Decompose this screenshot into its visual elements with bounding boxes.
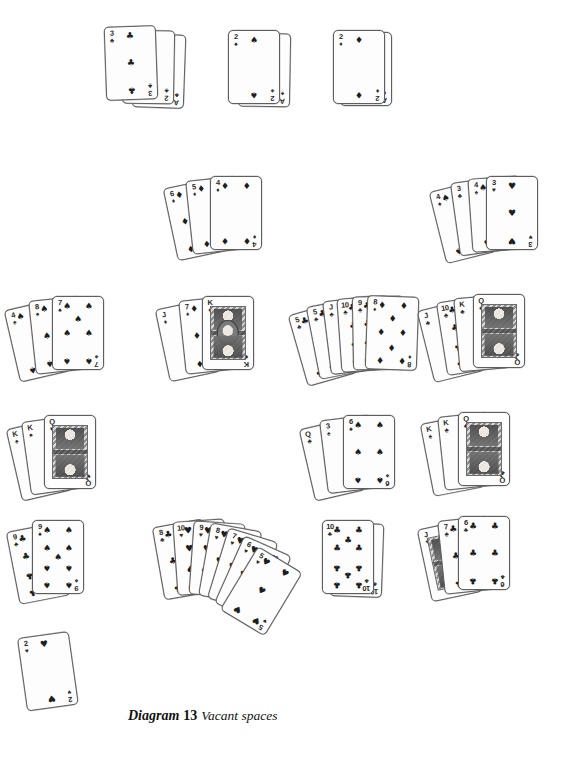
playing-card[interactable]: 6♣6♣♣♣♣♣♣♣ [458, 516, 510, 590]
card-pip-field: ♣♣♣♣♣♣♣♣♣♣ [335, 526, 361, 588]
caption-number: 13 [183, 708, 197, 723]
playing-card[interactable]: 2♥2♥♥♥ [17, 631, 79, 712]
card-pip: ♦ [400, 301, 408, 310]
playing-card[interactable]: Q♣Q♣ [458, 412, 510, 486]
card-pip: ♣ [355, 544, 363, 553]
card-pip: ♦ [243, 181, 251, 190]
card-pip-field: ♠♠♠♠♠♠♠ [65, 302, 91, 364]
card-pip: ♠ [85, 329, 93, 338]
card-pile[interactable]: 9♣9♣♣♣♣♣♣♣♣♣♣9♠9♠♠♠♠♠♠♠♠♠♠ [18, 520, 150, 644]
card-pip: ♠ [250, 90, 258, 99]
playing-card[interactable]: Q♥Q♥ [44, 415, 96, 489]
card-pip: ♠ [250, 35, 258, 44]
card-pile[interactable]: 2♥2♥♥♥ [26, 634, 158, 757]
card-pip: ♣ [333, 580, 341, 589]
playing-card[interactable]: K♦K♦ [202, 296, 254, 370]
card-pip: ♠ [376, 448, 384, 457]
card-corner-index: 2♠ [231, 33, 242, 48]
card-pip-field: ♣♣♣ [117, 32, 145, 95]
card-pip: ♣ [128, 86, 136, 95]
card-pip: ♦ [193, 331, 202, 341]
card-pip-field: ♦♦♦♦♦♦♦♦ [378, 302, 406, 365]
card-pip: ♥ [47, 693, 56, 703]
card-pip-field: ♦♦ [346, 36, 372, 98]
card-pip: ♣ [491, 521, 499, 530]
card-pip: ♣ [333, 544, 341, 553]
card-pip: ♠ [40, 304, 49, 314]
card-pip: ♣ [333, 525, 341, 534]
card-pip: ♠ [441, 193, 451, 204]
playing-card[interactable]: 9♠9♠♠♠♠♠♠♠♠♠♠ [32, 520, 84, 594]
card-pile[interactable]: J♥J♥7♣7♣♣♣♣♣♣♣♣6♣6♣♣♣♣♣♣♣ [430, 516, 562, 640]
card-pip: ♣ [491, 549, 499, 558]
card-pip: ♦ [190, 304, 199, 314]
card-pip: ♦ [376, 355, 384, 364]
card-pip: ♣ [491, 576, 499, 585]
card-pile[interactable]: 8♣8♣♣♣♣♣♣♣♣♣10♥10♥♥♥♥♥♥♥♥♥♥♥9♥9♥♥♥♥♥♥♥♥♥… [163, 518, 295, 642]
card-corner-index: 2♥ [63, 687, 76, 703]
card-pip: ♥ [232, 603, 244, 615]
card-pip: ♣ [18, 534, 28, 544]
card-pip: ♦ [387, 342, 395, 351]
card-corner-index: 2♦ [336, 33, 347, 48]
card-pip: ♠ [354, 420, 362, 429]
playing-card[interactable]: 3♣3♣♣♣♣ [104, 25, 159, 101]
card-pip: ♠ [43, 580, 51, 589]
card-pip: ♠ [63, 301, 71, 310]
card-pile[interactable]: A♣A♣♣2♣2♣♣♣3♣3♣♣♣♣ [106, 26, 238, 150]
card-pile[interactable]: J♦J♦♦7♦7♦♦♦♦♦♦♦♦K♦K♦ [168, 296, 300, 420]
card-pile[interactable]: A♦A♦♦2♦2♦♦♦ [333, 30, 465, 154]
card-pip: ♣ [127, 58, 135, 67]
card-pip: ♣ [344, 535, 352, 544]
card-pip: ♠ [65, 580, 73, 589]
card-pile[interactable]: 4♠4♠♠♠♠♠8♠8♠♠♠♠♠♠♠♠♠7♠7♠♠♠♠♠♠♠♠ [18, 296, 150, 420]
card-pip: ♣ [333, 562, 341, 571]
court-medallion [217, 320, 239, 346]
court-card-artwork [466, 422, 502, 476]
card-pip: ♠ [16, 311, 26, 322]
card-pip: ♦ [388, 315, 396, 324]
card-pip: ♠ [376, 475, 384, 484]
playing-card[interactable]: 8♦8♦♦♦♦♦♦♦♦♦ [365, 295, 420, 371]
card-pip: ♠ [85, 356, 93, 365]
card-pip: ♠ [54, 553, 62, 562]
card-pip: ♠ [43, 525, 51, 534]
card-pip: ♣ [164, 529, 174, 539]
card-pip: ♥ [39, 639, 48, 649]
playing-card[interactable]: 6♠6♠♠♠♠♠♠♠ [343, 415, 395, 489]
card-pile[interactable]: 4♠4♠♠♠♠♠3♣3♣♣♣♣4♠4♠♠♠♠♠3♥3♥♥♥♥ [444, 176, 575, 300]
card-pip: ♠ [65, 525, 73, 534]
card-pip: ♠ [63, 356, 71, 365]
card-pip: ♣ [21, 552, 31, 562]
card-pip: ♠ [354, 475, 362, 484]
card-pip: ♣ [469, 576, 477, 585]
playing-card[interactable]: 10♣10♣♣♣♣♣♣♣♣♣♣♣ [322, 520, 374, 594]
card-pile[interactable]: 6♦6♦♦♦♦♦♦♦5♦5♦♦♦♦♦♦4♦4♦♦♦♦♦ [176, 176, 308, 300]
playing-card[interactable]: Q♠Q♠ [473, 294, 525, 368]
court-card-artwork [52, 425, 88, 479]
card-pip: ♦ [355, 90, 363, 99]
card-pip-field: ♠♠♠♠♠♠♠♠♠ [45, 526, 71, 588]
playing-card[interactable]: 7♠7♠♠♠♠♠♠♠♠ [52, 296, 104, 370]
card-pip: ♦ [175, 190, 185, 200]
card-corner-index: 2♠ [267, 87, 278, 102]
card-pip: ♥ [279, 568, 291, 580]
card-pile[interactable]: J♣J♣♣10♣10♣♣♣♣♣♣♣♣♣♣♣K♣K♣♣Q♠Q♠ [432, 294, 564, 418]
playing-card[interactable]: 3♥3♥♥♥♥ [486, 176, 538, 250]
card-pip: ♣ [344, 570, 352, 579]
card-pip: ♥ [255, 585, 267, 597]
card-pip-field: ♥♥♥ [499, 182, 525, 244]
card-pip-field: ♠♠♠♠♠♠ [356, 421, 382, 483]
playing-card[interactable]: 2♠2♠♠♠ [228, 30, 280, 104]
card-pip-field: ♦♦♦♦ [223, 182, 249, 244]
playing-card[interactable]: 4♦4♦♦♦♦♦ [210, 176, 262, 250]
court-card-artwork [210, 306, 246, 360]
card-pip: ♣ [355, 525, 363, 534]
card-pip: ♣ [126, 31, 134, 40]
card-corner-index: 3♥ [525, 233, 536, 248]
caption-lead: Diagram [128, 708, 179, 723]
card-pip: ♠ [74, 315, 82, 324]
card-pip: ♣ [355, 580, 363, 589]
playing-card[interactable]: 2♦2♦♦♦ [333, 30, 385, 104]
card-pip: ♦ [221, 236, 229, 245]
